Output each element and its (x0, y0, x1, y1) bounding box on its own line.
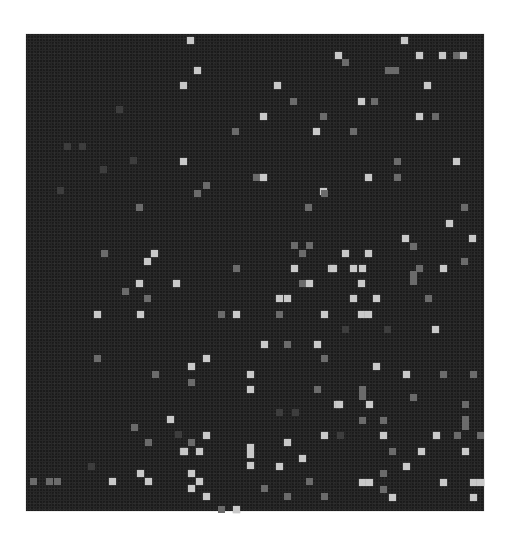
matrix-cell (175, 431, 182, 438)
matrix-cell (366, 401, 373, 408)
matrix-cell (440, 265, 447, 272)
matrix-cell (136, 280, 143, 287)
matrix-cell (460, 52, 467, 59)
matrix-cell (284, 439, 291, 446)
matrix-cell (131, 424, 138, 431)
matrix-cell (188, 485, 195, 492)
matrix-cell (371, 98, 378, 105)
matrix-cell (253, 174, 260, 181)
matrix-cell (425, 295, 432, 302)
matrix-cell (130, 157, 137, 164)
matrix-cell (180, 158, 187, 165)
matrix-cell (320, 113, 327, 120)
matrix-cell (410, 271, 417, 285)
matrix-cell (359, 479, 366, 486)
matrix-cell (188, 379, 195, 386)
matrix-cell (373, 295, 380, 302)
matrix-cell (218, 506, 225, 513)
matrix-cell (359, 386, 366, 400)
matrix-cell (180, 82, 187, 89)
matrix-cell (380, 470, 387, 477)
matrix-cell (276, 409, 283, 416)
matrix-cell (79, 143, 86, 150)
matrix-cell (94, 311, 101, 318)
matrix-cell (462, 401, 469, 408)
matrix-cell (144, 258, 151, 265)
matrix-cell (284, 341, 291, 348)
matrix-cell (299, 455, 306, 462)
matrix-cell (384, 326, 391, 333)
matrix-cell (321, 311, 328, 318)
matrix-cell (290, 98, 297, 105)
matrix-cell (477, 479, 484, 486)
matrix-cell (365, 311, 372, 318)
matrix-cell (46, 478, 53, 485)
matrix-cell (145, 478, 152, 485)
matrix-cell (418, 448, 425, 455)
matrix-cell (284, 493, 291, 500)
matrix-cell (462, 416, 469, 430)
matrix-cell (394, 158, 401, 165)
matrix-cell (299, 280, 306, 287)
matrix-cell (137, 470, 144, 477)
matrix-cell (350, 265, 357, 272)
matrix-cell (432, 113, 439, 120)
matrix-cell (94, 355, 101, 362)
matrix-cell (299, 250, 306, 257)
matrix-cell (358, 98, 365, 105)
matrix-cell (88, 463, 95, 470)
matrix-cell (233, 506, 240, 513)
matrix-cell (194, 190, 201, 197)
matrix-cell (188, 439, 195, 446)
matrix-cell (247, 371, 254, 378)
matrix-cell (385, 67, 399, 74)
matrix-cell (469, 235, 476, 242)
matrix-cell (342, 250, 349, 257)
matrix-cell (380, 432, 387, 439)
matrix-cell (342, 59, 349, 66)
matrix-cell (137, 311, 144, 318)
matrix-cell (321, 493, 328, 500)
matrix-cell (247, 386, 254, 393)
matrix-cell (194, 67, 201, 74)
matrix-cell (394, 174, 401, 181)
matrix-cell (440, 371, 447, 378)
matrix-cell (402, 235, 409, 242)
matrix-cell (446, 220, 453, 227)
matrix-cell (284, 295, 291, 302)
matrix-cell (276, 311, 283, 318)
matrix-cell (306, 478, 313, 485)
matrix-cell (335, 52, 342, 59)
matrix-cell (291, 265, 298, 272)
matrix-cell (337, 432, 344, 439)
matrix-cell (305, 204, 312, 211)
matrix-cell (232, 128, 239, 135)
matrix-cell (432, 326, 439, 333)
matrix-cell (152, 371, 159, 378)
matrix-cell (292, 409, 299, 416)
matrix-cell (477, 432, 484, 439)
matrix-cell (151, 250, 158, 257)
matrix-cell (144, 295, 151, 302)
matrix-cell (167, 416, 174, 423)
matrix-cell (439, 52, 446, 59)
matrix-cell (342, 326, 349, 333)
matrix-cell (122, 288, 129, 295)
matrix-cell (336, 401, 343, 408)
matrix-cell (274, 82, 281, 89)
matrix-cell (276, 463, 283, 470)
matrix-cell (470, 479, 477, 486)
matrix-cell (64, 143, 71, 150)
matrix-cell (314, 341, 321, 348)
matrix-cell (389, 494, 396, 501)
matrix-cell (203, 182, 210, 189)
matrix-cell (358, 280, 365, 287)
matrix-cell (470, 371, 477, 378)
matrix-cell (188, 363, 195, 370)
matrix-cell (233, 265, 240, 272)
matrix-cell (187, 37, 194, 44)
matrix-cell (261, 341, 268, 348)
matrix-cell (462, 448, 469, 455)
matrix-cell (306, 242, 313, 249)
matrix-cell (389, 448, 396, 455)
